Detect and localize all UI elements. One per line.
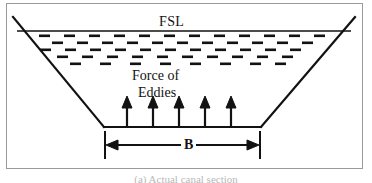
fsl-label: FSL	[159, 14, 184, 30]
right-slope-line	[261, 17, 355, 127]
force-arrow-up	[226, 96, 236, 126]
dimension-arrowhead-right	[247, 140, 259, 150]
bed-width-label: B	[181, 137, 196, 153]
eddy-row	[70, 63, 286, 66]
canal-outline	[13, 17, 355, 127]
eddy-row	[40, 49, 301, 52]
eddy-dash-field	[39, 35, 325, 66]
eddy-row	[57, 56, 293, 59]
force-arrow-up	[122, 96, 132, 126]
force-of-eddies-label-line-2: Eddies	[138, 85, 176, 101]
eddy-row	[52, 42, 313, 45]
force-arrow-up	[200, 96, 210, 126]
diagram-frame: FSL Force of Eddies B	[6, 3, 363, 169]
figure-root: FSL Force of Eddies B (a) Actual canal s…	[0, 0, 372, 183]
dimension-arrowhead-left	[106, 140, 118, 150]
left-slope-line	[13, 17, 104, 127]
force-of-eddies-label-line-1: Force of	[132, 68, 179, 84]
eddy-row	[39, 35, 325, 38]
figure-caption: (a) Actual canal section	[0, 173, 372, 183]
